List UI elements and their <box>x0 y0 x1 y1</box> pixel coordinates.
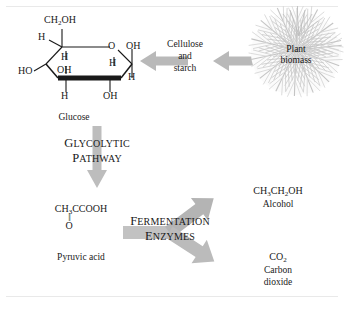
plant-biomass-label-line2: biomass <box>262 55 330 66</box>
glucose-ho-left-label: HO <box>18 65 32 76</box>
glycolytic-pathway-label-line1: GLYCOLYTIC <box>32 136 162 150</box>
glucose-ring-oxygen-label: O <box>108 40 115 51</box>
fermentation-pathway-diagram: CH2OH O H OH H OH H HO H H OH Glucose Ce… <box>0 0 344 310</box>
glycolytic-pathway-label-line2: PATHWAY <box>32 151 162 165</box>
glucose-oh-right-label: OH <box>126 40 140 51</box>
glucose-h-upper-left-label: H <box>38 31 45 42</box>
carbon-dioxide-formula: CO2 <box>236 251 320 265</box>
cellulose-label-line2: and <box>150 51 220 62</box>
glucose-oh-bottom-label: OH <box>103 90 117 101</box>
glucose-h-bottom-label: H <box>61 90 68 101</box>
fermentation-enzymes-label-line1: FERMENTATION <box>116 214 224 228</box>
cellulose-label-line1: Cellulose <box>150 39 220 50</box>
glucose-h-right-label: H <box>128 71 135 82</box>
pyruvic-acid-carbonyl-oxygen: O <box>36 220 102 231</box>
carbon-dioxide-caption-line1: Carbon <box>236 265 320 276</box>
pyruvic-acid-caption: Pyruvic acid <box>34 252 128 263</box>
frame-bottom-line <box>6 296 338 297</box>
glucose-structure: CH2OH O H OH H OH H HO H H OH <box>22 14 146 110</box>
carbon-dioxide-caption-line2: dioxide <box>236 277 320 288</box>
glucose-caption: Glucose <box>44 112 104 123</box>
alcohol-formula: CH3CH2OH <box>230 185 326 199</box>
plant-biomass-label: Plant biomass <box>262 44 330 66</box>
glucose-oh-inner-label: OH <box>57 64 71 75</box>
glucose-h-inner-right-label: H <box>109 57 116 68</box>
glucose-ch2oh-label: CH2OH <box>44 14 76 28</box>
alcohol-caption: Alcohol <box>230 199 326 210</box>
plant-biomass-label-line1: Plant <box>262 44 330 55</box>
fermentation-enzymes-label-line2: ENZYMES <box>116 229 224 243</box>
glucose-h-inner-label: H <box>61 51 68 62</box>
cellulose-label-line3: starch <box>150 63 220 74</box>
